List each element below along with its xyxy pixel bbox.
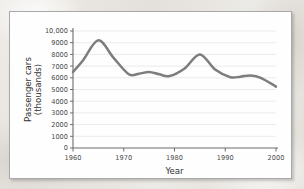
y-tick-label: 10,000 bbox=[45, 27, 68, 35]
y-tick-label: 7000 bbox=[51, 63, 68, 71]
y-tick-label: 5000 bbox=[51, 86, 68, 94]
x-axis-ticks: 19601970198019902000 bbox=[65, 148, 285, 162]
y-axis-title-line-1: Passenger cars bbox=[23, 57, 33, 122]
x-tick-label: 1990 bbox=[217, 154, 234, 162]
y-tick-label: 6000 bbox=[51, 74, 68, 82]
x-tick-label: 1980 bbox=[166, 154, 183, 162]
y-tick-label: 1000 bbox=[51, 133, 68, 141]
x-tick-label: 1970 bbox=[115, 154, 132, 162]
chart-card: 010002000300040005000600070008000900010,… bbox=[9, 11, 292, 179]
y-tick-label: 0 bbox=[64, 144, 68, 152]
y-axis-ticks: 010002000300040005000600070008000900010,… bbox=[45, 27, 73, 152]
x-axis-title: Year bbox=[164, 166, 184, 176]
x-tick-label: 1960 bbox=[65, 154, 82, 162]
y-tick-label: 9000 bbox=[51, 39, 68, 47]
line-chart-figure: 010002000300040005000600070008000900010,… bbox=[10, 12, 293, 180]
y-tick-label: 2000 bbox=[51, 121, 68, 129]
data-series-line bbox=[73, 40, 276, 86]
y-tick-label: 4000 bbox=[51, 98, 68, 106]
y-axis-title: Passenger cars (thousands) bbox=[23, 57, 43, 122]
y-axis-title-line-2: (thousands) bbox=[33, 64, 43, 115]
y-tick-label: 8000 bbox=[51, 51, 68, 59]
y-tick-label: 3000 bbox=[51, 109, 68, 117]
x-tick-label: 2000 bbox=[268, 154, 285, 162]
gridlines bbox=[73, 31, 276, 136]
